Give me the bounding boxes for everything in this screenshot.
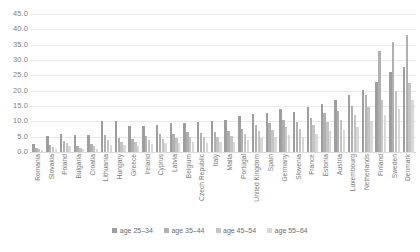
x-axis-label-cell: Denmark xyxy=(401,153,415,215)
bar-group xyxy=(196,14,210,152)
y-axis-tick-label: 20.0 xyxy=(0,87,28,95)
x-axis-tick-label: Slovakia xyxy=(48,154,55,179)
x-axis-label-cell: United Kingdom xyxy=(251,153,265,215)
bar-group xyxy=(388,14,402,152)
x-axis-label-cell: France xyxy=(305,153,319,215)
x-axis-label-cell: Austria xyxy=(333,153,347,215)
x-axis-tick-label: Italy xyxy=(213,154,220,166)
x-axis-label-cell: Ireland xyxy=(141,153,155,215)
x-axis-label-cell: Greece xyxy=(127,153,141,215)
bar xyxy=(137,146,139,152)
x-axis-label-cell: Germany xyxy=(278,153,292,215)
bar-group xyxy=(278,14,292,152)
y-axis-tick-label: 30.0 xyxy=(0,56,28,64)
bar-group xyxy=(305,14,319,152)
bar xyxy=(411,100,413,152)
x-axis-tick-label: Greece xyxy=(131,154,138,176)
y-axis-tick-label: 0.0 xyxy=(0,148,28,156)
x-axis-tick-label: Ireland xyxy=(144,154,151,175)
bar-group xyxy=(347,14,361,152)
bar-group xyxy=(72,14,86,152)
bar xyxy=(398,109,400,152)
x-axis-tick-label: United Kingdom xyxy=(254,154,261,202)
x-axis-label-cell: Slovakia xyxy=(45,153,59,215)
bar-group xyxy=(100,14,114,152)
bar-group xyxy=(141,14,155,152)
x-axis-tick-label: Malta xyxy=(227,154,234,170)
bar-group xyxy=(264,14,278,152)
bar-group xyxy=(237,14,251,152)
bar xyxy=(288,135,290,152)
x-axis-tick-label: Hungary xyxy=(117,154,124,179)
x-axis-tick-label: Austria xyxy=(336,154,343,175)
bar-group xyxy=(374,14,388,152)
bar xyxy=(110,145,112,152)
bar-group xyxy=(31,14,45,152)
bar xyxy=(233,142,235,152)
bar xyxy=(247,140,249,152)
x-axis-labels: RomaniaSlovakiaPolandBulgariaCroatiaLith… xyxy=(30,153,416,215)
x-axis-tick-label: Germany xyxy=(282,154,289,181)
legend-label: age 55–64 xyxy=(275,227,308,234)
bar-groups xyxy=(30,14,416,152)
bar xyxy=(55,149,57,152)
bar xyxy=(274,137,276,152)
bar-group xyxy=(113,14,127,152)
x-axis-tick-label: Spain xyxy=(268,154,275,171)
y-axis: 0.05.010.015.020.025.030.035.040.045.0 xyxy=(0,14,30,152)
bar-group xyxy=(127,14,141,152)
legend-item[interactable]: age 55–64 xyxy=(267,227,308,234)
bar-group xyxy=(209,14,223,152)
legend-label: age 45–54 xyxy=(223,227,256,234)
bar-group xyxy=(168,14,182,152)
x-axis-label-cell: Portugal xyxy=(237,153,251,215)
x-axis-tick-label: Portugal xyxy=(240,154,247,179)
legend-item[interactable]: age 25–34 xyxy=(112,227,153,234)
legend-item[interactable]: age 45–54 xyxy=(216,227,257,234)
legend-swatch-icon xyxy=(164,228,169,233)
x-axis-label-cell: Poland xyxy=(58,153,72,215)
bar-group xyxy=(401,14,415,152)
bar xyxy=(370,121,372,152)
bar-group xyxy=(223,14,237,152)
x-axis-tick-label: Poland xyxy=(62,154,69,175)
x-axis-label-cell: Sweden xyxy=(388,153,402,215)
grouped-bar-chart: 0.05.010.015.020.025.030.035.040.045.0 R… xyxy=(0,0,420,252)
legend: age 25–34age 35–44age 45–54age 55–64 xyxy=(0,227,420,234)
x-axis-tick-label: Estonia xyxy=(323,154,330,176)
bar-group xyxy=(182,14,196,152)
x-axis-tick-label: Belgium xyxy=(185,154,192,178)
x-axis-label-cell: Spain xyxy=(264,153,278,215)
x-axis-label-cell: Lithuania xyxy=(100,153,114,215)
bar xyxy=(123,145,125,152)
legend-item[interactable]: age 35–44 xyxy=(164,227,205,234)
bar xyxy=(315,134,317,152)
y-axis-tick-label: 40.0 xyxy=(0,26,28,34)
bar xyxy=(384,115,386,152)
bar xyxy=(151,144,153,152)
bar xyxy=(96,149,98,152)
x-axis-tick-label: Netherlands xyxy=(364,154,371,190)
x-axis-tick-label: Finland xyxy=(378,154,385,176)
bar xyxy=(41,150,43,152)
x-axis-tick-label: Denmark xyxy=(405,154,412,181)
x-axis-label-cell: Belgium xyxy=(182,153,196,215)
plot-area xyxy=(30,14,416,152)
bar xyxy=(164,143,166,152)
legend-swatch-icon xyxy=(216,228,221,233)
bar xyxy=(356,127,358,152)
x-axis-tick-label: Latvia xyxy=(172,154,179,172)
bar xyxy=(219,142,221,152)
x-axis-label-cell: Czech Republic xyxy=(196,153,210,215)
bar xyxy=(178,143,180,152)
x-axis-label-cell: Slovenia xyxy=(292,153,306,215)
x-axis-tick-label: France xyxy=(309,154,316,175)
x-axis-label-cell: Hungary xyxy=(113,153,127,215)
x-axis-tick-label: Croatia xyxy=(89,154,96,176)
x-axis-label-cell: Luxembourg xyxy=(347,153,361,215)
x-axis-label-cell: Malta xyxy=(223,153,237,215)
x-axis-label-cell: Cyprus xyxy=(154,153,168,215)
bar-group xyxy=(333,14,347,152)
x-axis-label-cell: Netherlands xyxy=(360,153,374,215)
legend-swatch-icon xyxy=(112,228,117,233)
